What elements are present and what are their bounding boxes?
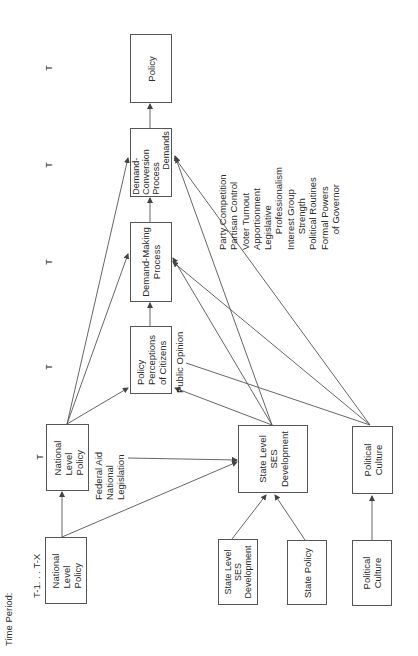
time-mark-policy: T [44, 65, 54, 71]
node-label: Policy Perceptions of Citizens [135, 335, 168, 385]
node-political-culture-prev[interactable]: Political Culture [352, 540, 392, 606]
time-mark-perceptions: T [44, 364, 54, 370]
public-opinion-annotation: Public Opinion [174, 332, 185, 393]
node-state-ses-prev[interactable]: State Level SES Development [218, 539, 258, 605]
node-demand-conversion[interactable]: Demand- Conversion Process Demands [130, 128, 172, 197]
time-period-prev-label: T-1. . . T-X [31, 554, 42, 598]
node-policy-perceptions[interactable]: Policy Perceptions of Citizens [130, 326, 172, 394]
time-mark-conversion: T [44, 162, 54, 168]
federal-aid-annotation: Federal Aid National Legislation [93, 452, 126, 500]
node-label: Political Culture [361, 557, 383, 590]
conversion-variables-annotation: Party Competition Partisan Control Voter… [217, 167, 341, 250]
node-label: State Policy [302, 547, 313, 597]
node-label: Demand-Making Process [140, 227, 162, 297]
node-policy[interactable]: Policy [130, 34, 172, 103]
node-label: State Level SES Development [257, 431, 290, 487]
time-mark-current: T [35, 454, 45, 460]
node-label: National Level Policy [50, 553, 83, 588]
node-label: National Level Policy [51, 440, 84, 475]
node-label: Demand- Conversion Process Demands [131, 131, 171, 195]
node-political-culture-current[interactable]: Political Culture [352, 426, 393, 494]
node-state-ses-current[interactable]: State Level SES Development [238, 425, 308, 493]
node-national-policy-prev[interactable]: National Level Policy [45, 537, 87, 604]
node-label: State Level SES Development [223, 545, 253, 598]
node-demand-making[interactable]: Demand-Making Process [130, 222, 172, 302]
node-state-policy[interactable]: State Policy [287, 540, 327, 605]
time-mark-demand-making: T [44, 259, 54, 265]
policy-causal-diagram: T T T T T Time Period: T-1. . . T-X Nati… [0, 0, 418, 656]
node-label: Political Culture [362, 444, 384, 477]
node-national-policy-current[interactable]: National Level Policy [46, 424, 89, 491]
node-label: Policy [146, 56, 157, 81]
time-period-label: Time Period: [3, 593, 14, 647]
